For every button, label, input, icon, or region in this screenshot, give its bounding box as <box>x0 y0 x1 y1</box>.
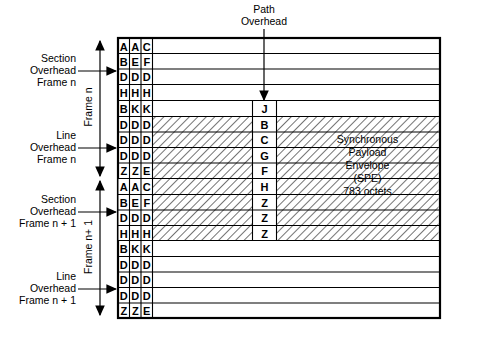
cell-r13-c2: K <box>141 243 153 255</box>
cell-r1-c2: F <box>141 56 153 68</box>
cell-r6-c0: D <box>118 134 130 146</box>
cell-r14-c0: D <box>118 259 130 271</box>
line-overhead-n1-label: Line Overhead Frame n + 1 <box>0 270 76 306</box>
cell-r1-c1: E <box>130 56 142 68</box>
cell-r2-c0: D <box>118 71 130 83</box>
cell-r5-c1: D <box>130 119 142 131</box>
line-overhead-n-label: Line Overhead Frame n <box>0 129 76 165</box>
frame-n-label: Frame n <box>82 67 94 147</box>
cell-r3-c1: H <box>130 87 142 99</box>
cell-r11-c2: D <box>141 212 153 224</box>
cell-r9-c2: C <box>141 181 153 193</box>
cell-r10-c2: F <box>141 197 153 209</box>
cell-r17-c2: E <box>141 305 153 317</box>
cell-r12-c0: H <box>118 228 130 240</box>
cell-r5-c2: D <box>141 119 153 131</box>
poh-cell-r9: H <box>253 181 277 193</box>
cell-r4-c2: K <box>141 103 153 115</box>
poh-cell-r10: Z <box>253 197 277 209</box>
cell-r16-c1: D <box>130 290 142 302</box>
cell-r11-c0: D <box>118 212 130 224</box>
poh-cell-r4: J <box>253 103 277 115</box>
cell-r0-c2: C <box>141 41 153 53</box>
section-overhead-n1-label: Section Overhead Frame n + 1 <box>0 193 76 229</box>
poh-cell-r5: B <box>253 119 277 131</box>
cell-r7-c0: D <box>118 150 130 162</box>
poh-cell-r6: C <box>253 134 277 146</box>
frame-n1-label: Frame n+ 1 <box>82 205 94 289</box>
cell-r10-c1: E <box>130 197 142 209</box>
cell-r15-c2: D <box>141 274 153 286</box>
poh-cell-r12: Z <box>253 228 277 240</box>
cell-r12-c1: H <box>130 228 142 240</box>
path-overhead-label: Path Overhead <box>224 3 304 27</box>
spe-label: Synchronous Payload Envelope (SPE) 783 o… <box>300 133 435 198</box>
cell-r15-c1: D <box>130 274 142 286</box>
cell-r0-c1: A <box>130 41 142 53</box>
cell-r17-c1: Z <box>130 305 142 317</box>
cell-r17-c0: Z <box>118 305 130 317</box>
cell-r11-c1: D <box>130 212 142 224</box>
cell-r9-c0: A <box>118 181 130 193</box>
cell-r6-c2: D <box>141 134 153 146</box>
cell-r3-c0: H <box>118 87 130 99</box>
cell-r10-c0: B <box>118 197 130 209</box>
cell-r8-c0: Z <box>118 165 130 177</box>
cell-r6-c1: D <box>130 134 142 146</box>
cell-r0-c0: A <box>118 41 130 53</box>
cell-r4-c1: K <box>130 103 142 115</box>
cell-r16-c0: D <box>118 290 130 302</box>
section-overhead-n-label: Section Overhead Frame n <box>0 52 76 88</box>
cell-r14-c1: D <box>130 259 142 271</box>
cell-r2-c2: D <box>141 71 153 83</box>
poh-cell-r11: Z <box>253 212 277 224</box>
cell-r13-c1: K <box>130 243 142 255</box>
cell-r14-c2: D <box>141 259 153 271</box>
cell-r3-c2: H <box>141 87 153 99</box>
cell-r16-c2: D <box>141 290 153 302</box>
cell-r12-c2: H <box>141 228 153 240</box>
sonet-frame-diagram: A A C B E F D D D H H H B K K D D D D D … <box>0 0 478 346</box>
cell-r5-c0: D <box>118 119 130 131</box>
cell-r15-c0: D <box>118 274 130 286</box>
cell-r4-c0: B <box>118 103 130 115</box>
cell-r7-c1: D <box>130 150 142 162</box>
cell-r7-c2: D <box>141 150 153 162</box>
cell-r8-c1: Z <box>130 165 142 177</box>
poh-cell-r7: G <box>253 150 277 162</box>
cell-r9-c1: A <box>130 181 142 193</box>
cell-r8-c2: E <box>141 165 153 177</box>
cell-r13-c0: B <box>118 243 130 255</box>
poh-cell-r8: F <box>253 165 277 177</box>
cell-r2-c1: D <box>130 71 142 83</box>
cell-r1-c0: B <box>118 56 130 68</box>
